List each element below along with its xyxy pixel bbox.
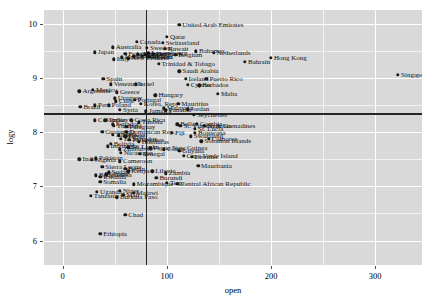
point-label: Belgium: [178, 52, 202, 59]
point-label: Solomon Islands: [204, 138, 251, 145]
scatter-point[interactable]: [243, 60, 246, 63]
x-axis-tick-label: 300: [369, 271, 382, 281]
point-label: Japan: [98, 49, 114, 56]
point-label: Fiji: [175, 129, 185, 136]
scatter-point[interactable]: [99, 232, 102, 235]
x-axis-title: open: [225, 285, 242, 295]
scatter-point[interactable]: [101, 165, 104, 168]
y-axis-title: logy: [5, 129, 15, 144]
y-axis-tick: [40, 186, 43, 187]
point-label: Central African Republic: [180, 180, 250, 187]
x-axis-tick-label: 200: [265, 271, 278, 281]
x-axis-tick: [167, 266, 168, 269]
point-label: Nicaragua: [124, 149, 153, 156]
scatter-point[interactable]: [186, 83, 189, 86]
scatter-point[interactable]: [269, 56, 272, 59]
y-gridline-minor: [44, 213, 422, 214]
point-label: Burkina Faso: [120, 194, 158, 201]
x-axis-tick: [271, 266, 272, 269]
point-label: Bahrain: [248, 58, 270, 65]
x-axis-tick: [375, 266, 376, 269]
point-label: Chad: [128, 211, 143, 218]
scatter-point[interactable]: [178, 23, 181, 26]
scatter-point[interactable]: [200, 140, 203, 143]
scatter-point[interactable]: [78, 90, 81, 93]
scatter-point[interactable]: [182, 154, 185, 157]
scatter-point[interactable]: [102, 77, 105, 80]
point-label: Israel: [139, 81, 155, 88]
x-axis-tick-label: 0: [61, 271, 65, 281]
y-axis-tick: [40, 132, 43, 133]
y-axis-tick-label: 10: [29, 19, 38, 29]
scatter-plot-figure: United Arab EmiratesQatarCanadaSwitzerla…: [0, 0, 442, 300]
scatter-point[interactable]: [157, 62, 160, 65]
scatter-point[interactable]: [99, 180, 102, 183]
y-gridline-major: [44, 241, 422, 242]
y-axis-tick-label: 9: [33, 73, 37, 83]
x-axis-tick-label: 100: [161, 271, 174, 281]
scatter-point[interactable]: [106, 144, 109, 147]
scatter-point[interactable]: [78, 157, 81, 160]
scatter-point[interactable]: [89, 194, 92, 197]
point-label: Belize: [180, 121, 198, 128]
point-label: Brazil: [83, 103, 100, 110]
point-label: Italy: [117, 56, 130, 63]
scatter-point[interactable]: [101, 130, 104, 133]
scatter-point[interactable]: [118, 108, 121, 111]
scatter-point[interactable]: [93, 51, 96, 54]
point-label: Hungary: [158, 92, 183, 99]
point-label: Ethiopia: [103, 231, 127, 238]
point-label: Seychelles: [197, 111, 227, 118]
y-axis-tick: [40, 24, 43, 25]
scatter-point[interactable]: [79, 105, 82, 108]
point-label: Mauritania: [201, 162, 232, 169]
scatter-point[interactable]: [189, 135, 192, 138]
scatter-point[interactable]: [396, 73, 399, 76]
y-axis-tick-label: 7: [33, 181, 37, 191]
point-label: Jamaica: [149, 108, 172, 115]
y-axis-tick: [40, 241, 43, 242]
horizontal-reference-line: [44, 113, 422, 115]
y-axis-tick: [40, 78, 43, 79]
point-label: United Arab Emirates: [182, 21, 243, 28]
scatter-point[interactable]: [196, 164, 199, 167]
scatter-point[interactable]: [192, 113, 195, 116]
scatter-point[interactable]: [178, 70, 181, 73]
point-label: Hong Kong: [274, 54, 307, 61]
scatter-point[interactable]: [184, 77, 187, 80]
y-axis-tick-label: 8: [33, 127, 37, 137]
y-axis-tick-label: 6: [33, 236, 37, 246]
scatter-point[interactable]: [124, 213, 127, 216]
point-label: Barbados: [202, 82, 228, 89]
point-label: Syria: [123, 106, 138, 113]
point-label: Panama: [169, 107, 191, 114]
x-axis-tick: [63, 266, 64, 269]
point-label: Singapore: [401, 72, 422, 79]
x-gridline-major: [375, 10, 376, 265]
point-label: Malta: [221, 91, 237, 98]
point-label: Argentina: [82, 88, 110, 95]
point-label: Netherlands: [217, 49, 251, 56]
point-label: Somalia: [103, 178, 126, 185]
x-gridline-minor: [323, 10, 324, 265]
plot-panel: United Arab EmiratesQatarCanadaSwitzerla…: [44, 10, 422, 265]
scatter-point[interactable]: [93, 118, 96, 121]
point-label: Lesotho: [195, 154, 218, 161]
scatter-point[interactable]: [94, 174, 97, 177]
scatter-point[interactable]: [151, 169, 154, 172]
x-gridline-major: [271, 10, 272, 265]
x-gridline-major: [63, 10, 64, 265]
point-label: Togo: [170, 180, 184, 187]
point-label: Kenya: [131, 168, 149, 175]
